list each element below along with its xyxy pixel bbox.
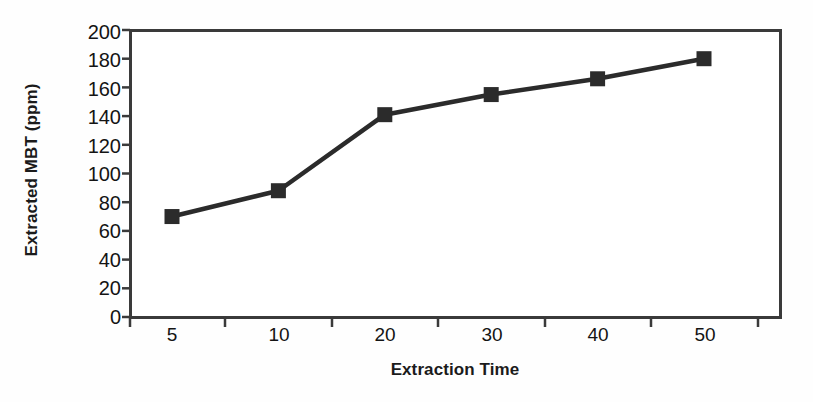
data-point-marker [165,209,180,224]
plot-area [0,0,813,402]
data-point-marker [697,51,712,66]
plot-frame [131,31,781,318]
data-point-marker [484,87,499,102]
y-tick-marks [122,30,130,317]
chart-figure: Extracted MBT (ppm) 0 20 40 60 80 100 12… [0,0,813,402]
data-point-marker [271,183,286,198]
data-point-marker [590,71,605,86]
data-point-marker [377,107,392,122]
